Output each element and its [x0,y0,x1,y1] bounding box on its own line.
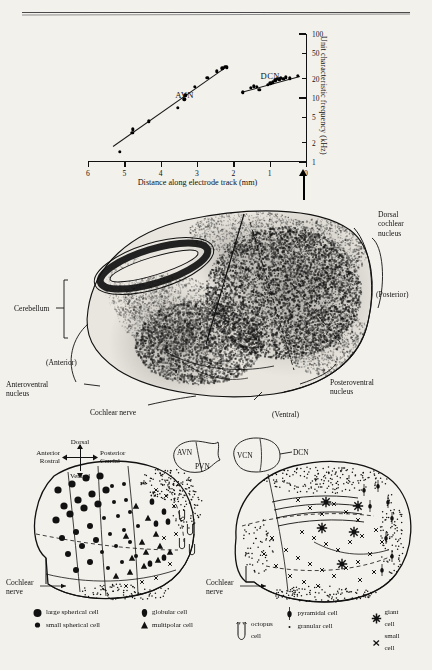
granular-cell [349,481,351,483]
granular-cell [245,555,247,557]
granular-cell [143,480,145,482]
chart-plot-area [88,34,306,162]
label-anterior: (Anterior) [46,358,77,367]
granular-cell [161,497,163,499]
granular-cell [186,504,188,506]
granular-cell [149,480,151,482]
granular-cell [401,530,403,532]
multipolar-cell [167,549,173,555]
granular-cell [330,478,332,480]
granular-cell [142,483,144,485]
granular-cell [396,527,398,529]
granular-cell [174,481,176,483]
y-tick-label: 2 [312,138,316,147]
large-spherical-cell [59,535,65,541]
series-annotation: AVN [175,90,194,100]
small-cell [274,564,278,568]
granular-cell [195,505,197,507]
small-spherical-cell [122,528,126,532]
granular-cell [317,478,319,480]
granular-cell [171,488,173,490]
granular-cell [159,472,161,474]
granular-cell [146,483,148,485]
granular-cell [386,532,388,534]
small-cell [344,566,348,570]
granular-cell [385,548,387,550]
granular-cell [374,485,376,487]
granular-cell [390,510,392,512]
granular-cell [177,497,179,499]
granular-cell [389,571,391,573]
granular-cell [197,515,199,517]
globular-cell [150,499,155,505]
granular-cell [334,474,336,476]
granular-cell [146,475,148,477]
granular-cell [399,510,401,512]
granular-cell [368,477,370,479]
granular-cell [260,541,262,543]
granular-cell [326,472,328,474]
granular-cell [315,483,317,485]
granular-cell [388,494,390,496]
granular-cell [182,484,184,486]
granular-cell [321,486,323,488]
granular-cell [319,483,321,485]
inset-avn-label: AVN [177,448,193,457]
granular-cell [297,491,299,493]
granular-cell [338,467,340,469]
small-cell [308,506,312,510]
granular-cell [173,489,175,491]
legend-label: giant cell [385,607,405,630]
granular-cell [395,539,397,541]
granular-cell [183,521,185,523]
granular-cell [347,483,349,485]
granular-cell [190,499,192,501]
granular-cell [387,504,389,506]
granular-cell [322,468,324,470]
granular-cell [380,535,382,537]
granular-cell [151,495,153,497]
granular-cell [394,532,396,534]
granular-cell [354,487,356,489]
inset-vcn-label: VCN [237,451,253,460]
granular-cell [382,511,384,513]
globular-cell [154,521,159,527]
inset-dcn-label: DCN [293,448,309,457]
granular-cell [331,479,333,481]
legend-label: large spherical cell [46,607,99,619]
y-tick [299,161,306,162]
granular-cell [337,487,339,489]
granular-cell [173,507,175,509]
granular-cell [398,566,400,568]
granular-cell [321,479,323,481]
granular-cell [402,547,404,549]
granular-cell [260,555,262,557]
small-cell [308,562,312,566]
large-spherical-cell [82,474,89,481]
granular-cell [184,506,186,508]
granular-cell [279,486,281,488]
granular-cell [288,483,290,485]
granular-cell [387,534,389,536]
granular-cell [162,474,164,476]
legend-column-4: giant cell small cell [371,607,405,654]
granular-cell [157,468,159,470]
label-cochlear-nerve-left: Cochlear nerve [6,578,46,597]
granular-cell [296,486,298,488]
granular-cell [400,538,402,540]
small-cell [374,528,378,532]
granular-cell [396,571,398,573]
inset-ventral-nucleus: AVN PVN [166,436,236,480]
granular-cell [323,476,325,478]
granular-cell [328,466,330,468]
granular-cell [374,475,376,477]
large-spherical-cell [65,551,71,557]
granular-cell [374,483,376,485]
granular-cell [155,473,157,475]
tonotopy-chart-panel: 125102050100 6543210 Unit characteristic… [0,22,432,190]
granular-cell [275,486,277,488]
granular-cell [328,472,330,474]
granular-cell [183,526,185,528]
granular-cell [306,491,308,493]
granular-cell [245,531,247,533]
